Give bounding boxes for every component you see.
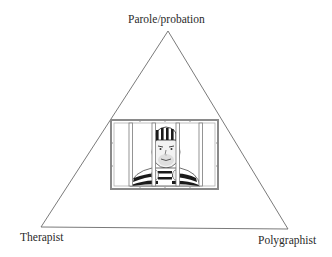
vertex-label-top: Parole/probation (128, 14, 205, 26)
prisoner-illustration (111, 120, 218, 189)
vertex-label-bottom-left: Therapist (20, 232, 63, 244)
vertex-label-bottom-right: Polygraphist (258, 235, 316, 247)
diagram-canvas (0, 0, 332, 257)
